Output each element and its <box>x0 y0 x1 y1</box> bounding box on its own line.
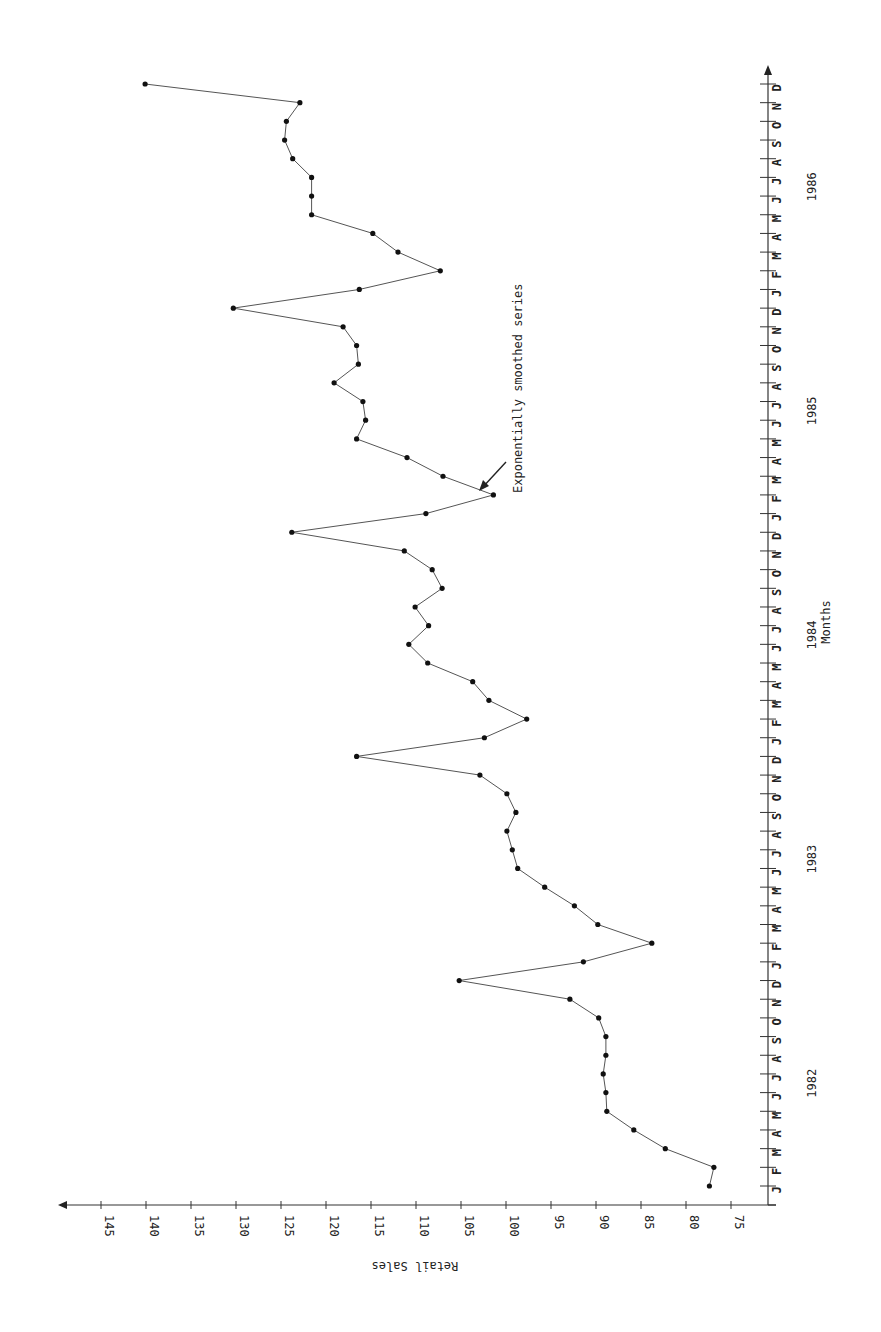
month-tick-label: A <box>770 905 784 913</box>
data-point <box>457 978 462 983</box>
value-tick-label: 75 <box>732 1215 746 1229</box>
month-tick-label: M <box>770 701 784 708</box>
month-tick-label: F <box>770 944 784 951</box>
month-tick-label: M <box>770 1149 784 1156</box>
data-point <box>504 791 509 796</box>
data-point <box>603 1034 608 1039</box>
data-point <box>309 212 314 217</box>
data-point <box>290 156 295 161</box>
x-axis-title: Months <box>819 600 833 643</box>
value-tick-label: 125 <box>282 1215 296 1237</box>
data-point <box>354 754 359 759</box>
data-point <box>649 941 654 946</box>
data-point <box>504 829 509 834</box>
month-tick-label: J <box>770 421 784 428</box>
year-label: 1984 <box>805 621 819 650</box>
data-point <box>477 772 482 777</box>
month-tick-label: S <box>770 1037 784 1044</box>
month-tick-label: D <box>770 757 784 764</box>
value-tick-label: 110 <box>417 1215 431 1237</box>
annotation-label: Exponentially smoothed series <box>511 283 525 493</box>
month-tick-label: D <box>770 84 784 91</box>
data-point <box>332 380 337 385</box>
month-tick-label: F <box>770 1168 784 1175</box>
data-point <box>423 511 428 516</box>
month-axis-arrow-icon <box>764 65 772 75</box>
month-tick-label: M <box>770 1112 784 1119</box>
month-tick-label: J <box>770 1186 784 1193</box>
data-point <box>486 698 491 703</box>
retail-sales-axis: 7580859095100105110115120125130135140145 <box>58 1201 776 1237</box>
month-tick-label: D <box>770 533 784 540</box>
month-tick-label: J <box>770 850 784 857</box>
value-tick-label: 80 <box>687 1215 701 1229</box>
month-tick-label: M <box>770 439 784 446</box>
data-point <box>711 1165 716 1170</box>
month-tick-label: O <box>770 794 784 801</box>
month-tick-label: J <box>770 738 784 745</box>
data-point <box>470 679 475 684</box>
year-label: 1985 <box>805 396 819 425</box>
month-tick-label: J <box>770 869 784 876</box>
data-point <box>513 810 518 815</box>
months-axis: JFMAMJJASONDJFMAMJJASONDJFMAMJJASONDJFMA… <box>760 65 819 1205</box>
month-tick-label: M <box>770 663 784 670</box>
month-tick-label: J <box>770 962 784 969</box>
value-tick-label: 95 <box>552 1215 566 1229</box>
month-tick-label: A <box>770 1130 784 1138</box>
data-point <box>404 455 409 460</box>
data-point <box>309 193 314 198</box>
month-tick-label: O <box>770 122 784 129</box>
data-point <box>524 716 529 721</box>
data-point <box>426 623 431 628</box>
data-point <box>354 343 359 348</box>
month-tick-label: O <box>770 1018 784 1025</box>
data-point <box>491 492 496 497</box>
month-tick-label: J <box>770 402 784 409</box>
month-tick-label: A <box>770 382 784 390</box>
data-point <box>440 586 445 591</box>
month-tick-label: J <box>770 626 784 633</box>
month-tick-label: M <box>770 252 784 259</box>
data-point <box>402 548 407 553</box>
data-point <box>297 100 302 105</box>
retail-sales-chart: 7580859095100105110115120125130135140145… <box>0 0 881 1332</box>
value-tick-label: 85 <box>642 1215 656 1229</box>
y-axis-title: Retail Sales <box>372 1259 459 1273</box>
month-tick-label: M <box>770 215 784 222</box>
data-point <box>289 530 294 535</box>
month-tick-label: F <box>770 271 784 278</box>
series-annotation: Exponentially smoothed series <box>479 283 525 493</box>
data-point <box>482 735 487 740</box>
data-point <box>360 399 365 404</box>
month-tick-label: S <box>770 813 784 820</box>
value-tick-label: 120 <box>327 1215 341 1237</box>
month-tick-label: O <box>770 346 784 353</box>
month-tick-label: O <box>770 570 784 577</box>
month-tick-label: N <box>770 103 784 110</box>
data-point <box>542 885 547 890</box>
data-point <box>567 997 572 1002</box>
data-point <box>143 81 148 86</box>
month-tick-label: S <box>770 140 784 147</box>
data-point <box>440 474 445 479</box>
month-tick-label: J <box>770 178 784 185</box>
value-axis-arrow-icon <box>58 1201 67 1209</box>
year-label: 1982 <box>805 1069 819 1098</box>
data-point <box>601 1071 606 1076</box>
value-tick-label: 140 <box>147 1215 161 1237</box>
month-tick-label: J <box>770 196 784 203</box>
data-point <box>631 1127 636 1132</box>
month-tick-label: N <box>770 551 784 558</box>
month-tick-label: M <box>770 925 784 932</box>
data-point <box>707 1183 712 1188</box>
data-point <box>595 922 600 927</box>
month-tick-label: A <box>770 457 784 465</box>
month-tick-label: F <box>770 495 784 502</box>
data-point <box>341 324 346 329</box>
value-tick-label: 90 <box>597 1215 611 1229</box>
month-tick-label: J <box>770 1093 784 1100</box>
month-tick-label: S <box>770 589 784 596</box>
data-point <box>425 660 430 665</box>
month-tick-label: A <box>770 233 784 241</box>
